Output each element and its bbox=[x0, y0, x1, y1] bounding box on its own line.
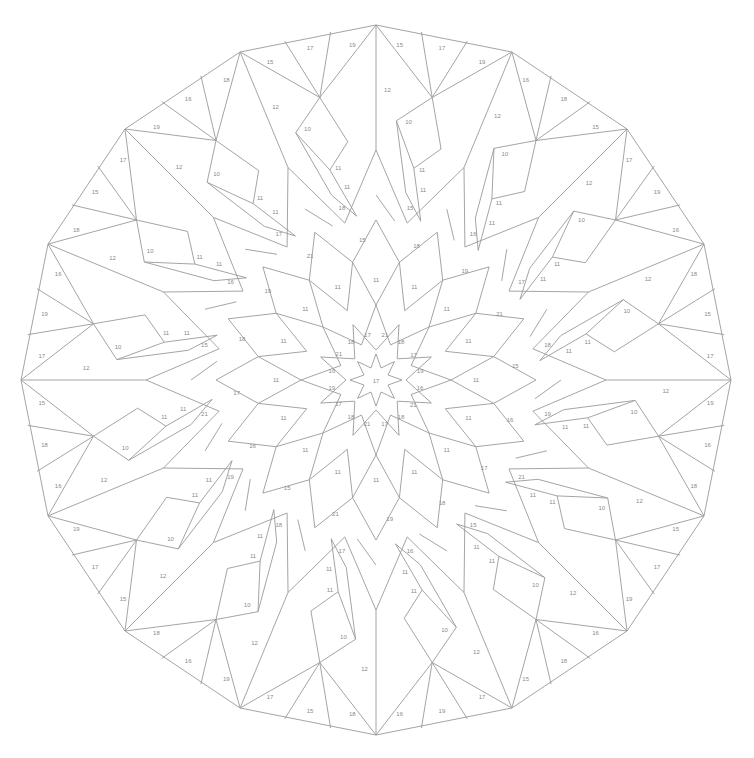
svg-text:10: 10 bbox=[122, 445, 129, 451]
svg-text:10: 10 bbox=[213, 171, 220, 177]
svg-text:18: 18 bbox=[413, 243, 420, 249]
svg-text:10: 10 bbox=[532, 582, 539, 588]
svg-text:11: 11 bbox=[489, 558, 496, 564]
svg-text:19: 19 bbox=[386, 516, 393, 522]
svg-text:11: 11 bbox=[216, 261, 223, 267]
svg-text:15: 15 bbox=[512, 363, 519, 369]
svg-text:16: 16 bbox=[329, 368, 336, 374]
svg-text:11: 11 bbox=[411, 284, 418, 290]
svg-text:17: 17 bbox=[654, 564, 661, 570]
svg-text:11: 11 bbox=[257, 195, 264, 201]
svg-text:17: 17 bbox=[439, 45, 446, 51]
svg-text:11: 11 bbox=[373, 477, 380, 483]
svg-text:11: 11 bbox=[554, 261, 561, 267]
svg-text:11: 11 bbox=[335, 165, 342, 171]
svg-text:16: 16 bbox=[470, 231, 477, 237]
svg-text:19: 19 bbox=[328, 385, 335, 391]
svg-text:19: 19 bbox=[349, 42, 356, 48]
svg-text:11: 11 bbox=[562, 424, 569, 430]
svg-text:18: 18 bbox=[690, 483, 697, 489]
svg-text:11: 11 bbox=[420, 187, 427, 193]
svg-text:12: 12 bbox=[160, 573, 167, 579]
svg-text:10: 10 bbox=[501, 151, 508, 157]
svg-text:16: 16 bbox=[55, 271, 62, 277]
svg-text:15: 15 bbox=[307, 708, 314, 714]
svg-text:11: 11 bbox=[566, 348, 573, 354]
svg-text:11: 11 bbox=[326, 566, 333, 572]
svg-text:15: 15 bbox=[120, 596, 127, 602]
svg-text:10: 10 bbox=[623, 308, 630, 314]
svg-text:18: 18 bbox=[560, 658, 567, 664]
svg-text:18: 18 bbox=[239, 336, 246, 342]
svg-text:16: 16 bbox=[672, 227, 679, 233]
svg-text:19: 19 bbox=[626, 596, 633, 602]
svg-text:10: 10 bbox=[441, 627, 448, 633]
svg-text:16: 16 bbox=[185, 96, 192, 102]
svg-text:11: 11 bbox=[473, 544, 480, 550]
svg-text:16: 16 bbox=[227, 279, 234, 285]
svg-text:12: 12 bbox=[570, 590, 577, 596]
svg-text:16: 16 bbox=[185, 658, 192, 664]
svg-text:10: 10 bbox=[405, 119, 412, 125]
svg-text:10: 10 bbox=[115, 344, 122, 350]
svg-text:11: 11 bbox=[206, 477, 213, 483]
svg-text:11: 11 bbox=[585, 339, 592, 345]
svg-text:11: 11 bbox=[257, 533, 264, 539]
svg-text:18: 18 bbox=[348, 414, 355, 420]
svg-text:12: 12 bbox=[384, 87, 391, 93]
svg-text:19: 19 bbox=[479, 59, 486, 65]
mandala-drawing: 1517191210111115181116181512101111161911… bbox=[0, 0, 754, 758]
svg-text:18: 18 bbox=[348, 339, 355, 345]
svg-text:21: 21 bbox=[382, 332, 389, 338]
svg-text:19: 19 bbox=[73, 526, 80, 532]
svg-text:21: 21 bbox=[307, 253, 314, 259]
svg-text:15: 15 bbox=[38, 400, 45, 406]
svg-text:16: 16 bbox=[507, 417, 514, 423]
svg-text:11: 11 bbox=[444, 447, 451, 453]
svg-text:19: 19 bbox=[544, 411, 551, 417]
svg-text:18: 18 bbox=[339, 205, 346, 211]
svg-text:19: 19 bbox=[461, 268, 468, 274]
svg-text:18: 18 bbox=[73, 227, 80, 233]
svg-text:11: 11 bbox=[444, 306, 451, 312]
svg-text:19: 19 bbox=[417, 368, 424, 374]
svg-text:11: 11 bbox=[402, 569, 409, 575]
svg-text:10: 10 bbox=[147, 248, 154, 254]
svg-text:15: 15 bbox=[522, 676, 529, 682]
svg-text:17: 17 bbox=[479, 694, 486, 700]
svg-text:17: 17 bbox=[381, 421, 388, 427]
svg-text:12: 12 bbox=[636, 498, 643, 504]
svg-text:11: 11 bbox=[192, 492, 199, 498]
svg-text:12: 12 bbox=[83, 365, 90, 371]
svg-text:12: 12 bbox=[101, 477, 108, 483]
svg-text:15: 15 bbox=[92, 189, 99, 195]
svg-text:17: 17 bbox=[233, 390, 240, 396]
svg-text:21: 21 bbox=[364, 421, 371, 427]
svg-text:15: 15 bbox=[284, 485, 291, 491]
svg-text:15: 15 bbox=[704, 311, 711, 317]
svg-text:11: 11 bbox=[540, 276, 547, 282]
svg-text:17: 17 bbox=[626, 157, 633, 163]
svg-text:11: 11 bbox=[327, 587, 334, 593]
svg-text:11: 11 bbox=[273, 377, 280, 383]
svg-text:11: 11 bbox=[583, 423, 590, 429]
svg-text:18: 18 bbox=[398, 414, 405, 420]
svg-text:10: 10 bbox=[631, 409, 638, 415]
svg-text:17: 17 bbox=[307, 45, 314, 51]
svg-text:21: 21 bbox=[332, 511, 339, 517]
svg-text:18: 18 bbox=[690, 271, 697, 277]
svg-text:11: 11 bbox=[344, 184, 351, 190]
svg-text:11: 11 bbox=[163, 330, 170, 336]
svg-text:16: 16 bbox=[704, 442, 711, 448]
svg-text:16: 16 bbox=[249, 443, 256, 449]
svg-text:11: 11 bbox=[335, 284, 342, 290]
svg-text:19: 19 bbox=[153, 124, 160, 130]
svg-text:11: 11 bbox=[196, 254, 203, 260]
svg-text:16: 16 bbox=[417, 385, 424, 391]
svg-text:15: 15 bbox=[672, 526, 679, 532]
svg-text:11: 11 bbox=[549, 499, 556, 505]
svg-text:19: 19 bbox=[264, 288, 271, 294]
svg-text:12: 12 bbox=[662, 388, 669, 394]
svg-text:11: 11 bbox=[419, 167, 426, 173]
svg-text:17: 17 bbox=[275, 231, 282, 237]
